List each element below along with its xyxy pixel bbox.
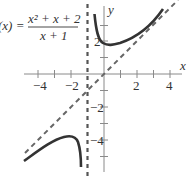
- equation-denominator: x + 1: [39, 28, 68, 43]
- x-axis-label: x: [179, 58, 186, 73]
- y-axis-label: y: [106, 2, 114, 17]
- curve-left-branch: [24, 136, 81, 167]
- curve-right-branch: [95, 9, 164, 45]
- equation: (x) = x² + x + 2 x + 1: [0, 11, 81, 43]
- x-tick-neg4: −4: [33, 78, 47, 93]
- x-tick-neg2: −2: [65, 78, 79, 93]
- function-graph: −4 −2 2 4 2 −2 −4 x y (x) = x² + x + 2 x…: [0, 0, 190, 181]
- equation-lhs: (x) =: [0, 18, 24, 33]
- y-tick-2: 2: [94, 34, 101, 49]
- equation-numerator: x² + x + 2: [27, 11, 81, 26]
- y-tick-neg2: −2: [90, 100, 104, 115]
- x-tick-2: 2: [133, 78, 140, 93]
- y-tick-neg4: −4: [90, 133, 104, 148]
- x-tick-4: 4: [166, 78, 173, 93]
